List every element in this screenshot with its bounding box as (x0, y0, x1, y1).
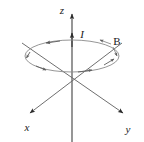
current-label: I (79, 28, 85, 40)
field-label: B (113, 35, 120, 47)
figure-canvas: x y z I (0, 0, 144, 142)
field-label-group: B (100, 35, 121, 56)
physics-figure: x y z I (0, 0, 144, 142)
axis-y-label: y (125, 123, 131, 135)
axis-z-label: z (59, 4, 65, 16)
field-direction-arrow-front-left (36, 66, 46, 70)
axis-y: y (22, 43, 131, 135)
field-direction-arrow-left (27, 52, 31, 58)
current-arrow: I (72, 28, 85, 47)
axis-x-label: x (24, 121, 30, 133)
axis-x: x (24, 43, 122, 133)
